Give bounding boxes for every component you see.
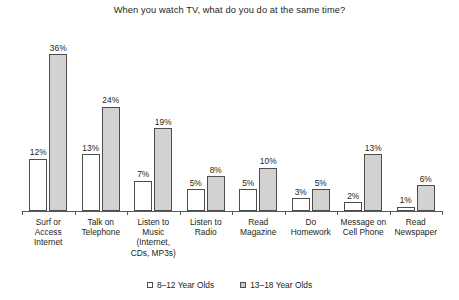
bar-item: 13% <box>364 144 382 211</box>
bar-group: 12%36% <box>22 18 75 211</box>
bar-group-bars: 5%10% <box>232 18 285 211</box>
bar-item: 6% <box>417 175 435 212</box>
bar <box>134 181 152 211</box>
bar-value-label: 10% <box>260 157 277 165</box>
bar <box>417 185 435 211</box>
bar-value-label: 1% <box>400 196 412 204</box>
bar-item: 13% <box>82 144 100 211</box>
bar-group: 5%8% <box>180 18 233 211</box>
bar <box>82 154 100 211</box>
bar <box>259 168 277 212</box>
axis-tick <box>75 211 76 215</box>
category-label: DoHomework <box>285 217 338 237</box>
bar-item: 5% <box>312 179 330 211</box>
chart-legend: 8–12 Year Olds13–18 Year Olds <box>0 280 459 290</box>
bar-value-label: 12% <box>30 148 47 156</box>
axis-tick <box>22 211 23 215</box>
bar-group: 1%6% <box>390 18 443 211</box>
bar <box>187 189 205 211</box>
bar-item: 5% <box>187 179 205 211</box>
bar-value-label: 7% <box>137 170 149 178</box>
category-label: Listen toRadio <box>180 217 233 237</box>
bar-chart: When you watch TV, what do you do at the… <box>0 0 459 300</box>
bar-value-label: 5% <box>315 179 327 187</box>
bar-value-label: 36% <box>50 44 67 52</box>
bar <box>29 159 47 211</box>
legend-item[interactable]: 13–18 Year Olds <box>240 280 312 290</box>
bar <box>207 176 225 211</box>
bar-group: 13%24% <box>75 18 128 211</box>
bar-group: 7%19% <box>127 18 180 211</box>
axis-tick <box>442 211 443 215</box>
bar-item: 24% <box>102 96 120 211</box>
bar-group-bars: 3%5% <box>285 18 338 211</box>
bar-group: 2%13% <box>337 18 390 211</box>
axis-tick <box>127 211 128 215</box>
bar-group-bars: 1%6% <box>390 18 443 211</box>
bar-group: 3%5% <box>285 18 338 211</box>
legend-swatch-young <box>147 282 153 288</box>
legend-item-label: 13–18 Year Olds <box>250 280 312 290</box>
axis-tick <box>180 211 181 215</box>
bar <box>154 128 172 211</box>
bar-item: 12% <box>29 148 47 211</box>
axis-tick <box>285 211 286 215</box>
plot-area: 12%36%13%24%7%19%5%8%5%10%3%5%2%13%1%6% <box>22 18 442 211</box>
category-label: Listen toMusic(Internet,CDs, MP3s) <box>127 217 180 258</box>
bar-group-bars: 12%36% <box>22 18 75 211</box>
bar-value-label: 19% <box>155 118 172 126</box>
axis-tick <box>390 211 391 215</box>
bar-item: 3% <box>292 188 310 211</box>
category-label: ReadMagazine <box>232 217 285 237</box>
bar-value-label: 3% <box>295 188 307 196</box>
bar <box>292 198 310 211</box>
category-label: Talk onTelephone <box>75 217 128 237</box>
axis-tick <box>232 211 233 215</box>
bar-item: 2% <box>344 192 362 211</box>
category-label: Surf orAccessInternet <box>22 217 75 248</box>
category-label: Message onCell Phone <box>337 217 390 237</box>
bar-value-label: 6% <box>420 175 432 183</box>
axis-tick <box>337 211 338 215</box>
bar-value-label: 2% <box>347 192 359 200</box>
bar-group-bars: 5%8% <box>180 18 233 211</box>
bar-value-label: 13% <box>82 144 99 152</box>
bar-item: 1% <box>397 196 415 211</box>
bar <box>344 202 362 211</box>
bar-item: 5% <box>239 179 257 211</box>
legend-item[interactable]: 8–12 Year Olds <box>147 280 214 290</box>
chart-title: When you watch TV, what do you do at the… <box>0 5 459 15</box>
category-label: ReadNewspaper <box>390 217 443 237</box>
bar-value-label: 5% <box>190 179 202 187</box>
bar-item: 7% <box>134 170 152 211</box>
bar-value-label: 24% <box>102 96 119 104</box>
bar-value-label: 5% <box>242 179 254 187</box>
bar-item: 36% <box>49 44 67 211</box>
bar-item: 8% <box>207 166 225 211</box>
bar-item: 10% <box>259 157 277 211</box>
bar-item: 19% <box>154 118 172 211</box>
bar-group: 5%10% <box>232 18 285 211</box>
bar-value-label: 8% <box>210 166 222 174</box>
bar <box>312 189 330 211</box>
bar-group-bars: 7%19% <box>127 18 180 211</box>
bar-group-bars: 13%24% <box>75 18 128 211</box>
x-axis-category-labels: Surf orAccessInternetTalk onTelephoneLis… <box>22 217 443 279</box>
legend-swatch-teen <box>240 282 246 288</box>
bar <box>102 107 120 211</box>
bar <box>364 154 382 211</box>
bar-group-bars: 2%13% <box>337 18 390 211</box>
bar-value-label: 13% <box>365 144 382 152</box>
bar <box>239 189 257 211</box>
legend-item-label: 8–12 Year Olds <box>157 280 214 290</box>
bar <box>49 54 67 211</box>
